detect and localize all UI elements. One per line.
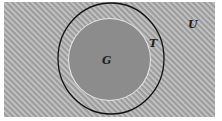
label-set-t: T: [149, 37, 158, 50]
set-diagram: U T G: [0, 0, 222, 121]
label-universe-u: U: [188, 18, 199, 31]
label-set-g: G: [102, 54, 111, 67]
